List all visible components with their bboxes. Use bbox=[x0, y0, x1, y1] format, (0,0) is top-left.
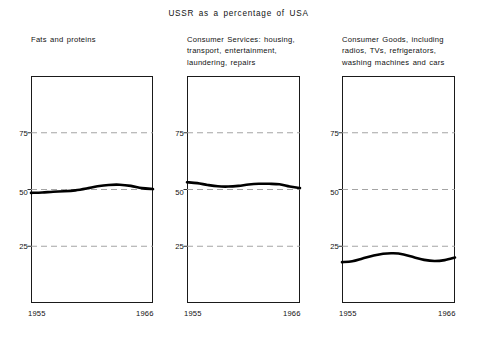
y-tick-25: 25 bbox=[323, 242, 339, 251]
panel-graphics bbox=[0, 0, 477, 345]
x-tick-end: 1966 bbox=[438, 309, 456, 318]
x-tick-start: 1955 bbox=[339, 309, 357, 318]
data-line bbox=[342, 253, 455, 262]
y-tick-50: 50 bbox=[323, 188, 339, 197]
y-tick-75: 75 bbox=[323, 129, 339, 138]
chart-figure: USSR as a percentage of USA Fats and pro… bbox=[0, 0, 477, 345]
